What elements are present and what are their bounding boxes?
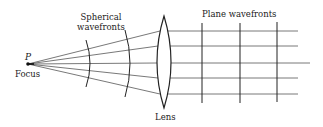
ray-2 [28,46,158,64]
diagram-canvas: P Focus Spherical wavefronts Plane wavef… [0,0,323,127]
spherical-wavefronts-label-line1: Spherical [78,13,124,22]
ray-3 [28,63,157,64]
focus-label: Focus [15,70,40,79]
spherical-wavefronts-label-line2: wavefronts [76,23,126,32]
lens-label: Lens [155,113,176,122]
ray-1 [28,31,160,64]
plane-wavefronts-label: Plane wavefronts [202,10,276,19]
ray-5 [28,64,160,94]
plane-wavefronts [202,22,277,103]
parallel-rays [168,31,310,94]
lens-diagram-svg [0,0,323,127]
focus-point-label: P [25,53,31,62]
converging-rays [28,31,160,94]
ray-4 [28,64,158,78]
